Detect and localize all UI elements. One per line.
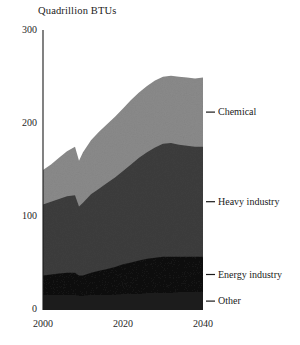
- chart-figure: Quadrillion BTUs 300 200 100 0 2000 2020…: [0, 0, 300, 345]
- series-label-other: Other: [218, 295, 241, 306]
- y-tick-label-0: 0: [4, 303, 37, 314]
- series-label-chemical: Chemical: [218, 106, 256, 117]
- y-tick-label-300: 300: [4, 24, 37, 35]
- x-tick-label-2040: 2040: [183, 318, 223, 329]
- x-tick-label-2020: 2020: [103, 318, 143, 329]
- series-label-energy-industry: Energy industry: [218, 269, 282, 280]
- series-label-heavy-industry: Heavy industry: [218, 196, 279, 207]
- y-tick-label-200: 200: [4, 117, 37, 128]
- chart-title: Quadrillion BTUs: [38, 5, 117, 16]
- stacked-area-chart: [0, 0, 300, 345]
- y-tick-label-100: 100: [4, 210, 37, 221]
- x-tick-label-2000: 2000: [23, 318, 63, 329]
